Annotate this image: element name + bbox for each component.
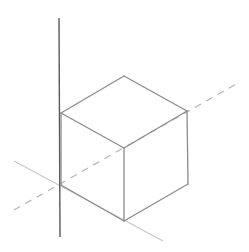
cube-edge-top-upper_left	[61, 76, 124, 113]
cube-edge-upper_left-center	[61, 113, 124, 148]
cube-edge-lower_right-bottom	[124, 184, 188, 221]
vertical-axis-line	[59, 18, 60, 237]
cube-diagram	[0, 0, 249, 252]
cube	[61, 76, 188, 221]
cube-edge-upper_right-center	[124, 111, 187, 148]
cube-edge-lower_left-bottom	[61, 185, 124, 221]
cube-edge-top-upper_right	[124, 76, 187, 111]
cube-edge-upper_right-lower_right	[187, 111, 188, 184]
